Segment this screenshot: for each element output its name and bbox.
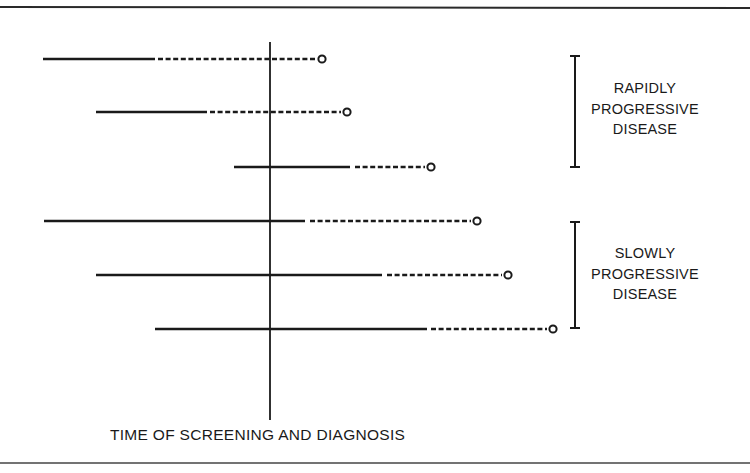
label-line: PROGRESSIVE [585,99,705,120]
axis-caption: TIME OF SCREENING AND DIAGNOSIS [110,426,405,444]
label-line: DISEASE [585,284,705,305]
label-line: RAPIDLY [585,78,705,99]
group-brackets [570,56,580,328]
endpoint-circle-icon [318,55,325,62]
endpoint-circle-icon [343,108,350,115]
group-label-rapidly-progressive: RAPIDLY PROGRESSIVE DISEASE [585,78,705,140]
group-bracket [570,56,580,167]
disease-course-row [96,271,512,278]
label-line: PROGRESSIVE [585,264,705,285]
label-line: DISEASE [585,119,705,140]
group-label-slowly-progressive: SLOWLY PROGRESSIVE DISEASE [585,243,705,305]
top-border-rule [0,7,750,8]
disease-course-rows [43,55,557,332]
group-bracket [570,222,580,328]
label-line: SLOWLY [585,243,705,264]
disease-course-row [43,55,326,62]
endpoint-circle-icon [549,325,556,332]
disease-course-row [96,108,351,115]
disease-course-row [155,325,557,332]
endpoint-circle-icon [504,271,511,278]
disease-course-row [234,163,435,170]
endpoint-circle-icon [473,217,480,224]
screening-timeline-diagram [0,0,750,473]
endpoint-circle-icon [427,163,434,170]
disease-course-row [44,217,481,224]
